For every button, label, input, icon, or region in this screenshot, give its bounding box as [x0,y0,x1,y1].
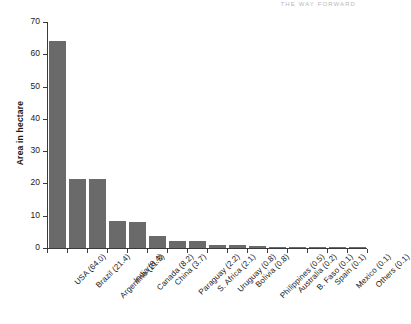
bar-paraguay [169,241,186,248]
y-tick-label: 70 [18,16,40,27]
y-tick-70: 70 [43,22,47,23]
bar-uruguay [209,245,226,248]
bar-brazil [69,179,86,248]
y-tick-label: 50 [18,81,40,92]
bar-mexico [329,247,346,248]
x-axis-labels: USA (64.0)Brazil (21.4)Argentina (21.3)I… [47,252,367,324]
bar-china [149,236,166,248]
y-tick-10: 10 [43,216,47,217]
bar-bolivia [229,245,246,248]
x-tick [367,249,368,253]
y-tick-label: 10 [18,210,40,221]
y-tick-60: 60 [43,54,47,55]
y-tick-20: 20 [43,183,47,184]
plot-area: 010203040506070 [47,22,367,248]
bar-b-faso [289,247,306,248]
bar-canada [129,222,146,248]
y-tick-label: 40 [18,113,40,124]
y-tick-label: 60 [18,48,40,59]
y-tick-label: 0 [18,242,40,253]
y-tick-30: 30 [43,151,47,152]
bar-usa [49,41,66,248]
y-tick-40: 40 [43,119,47,120]
bar-india [109,221,126,248]
bar-spain [309,247,326,248]
bar-philippines [249,246,266,248]
y-tick-label: 20 [18,177,40,188]
y-tick-label: 30 [18,145,40,156]
bar-s-africa [189,241,206,248]
bar-argentina [89,179,106,248]
bar-others [349,247,366,248]
bar-australia [269,247,286,248]
y-tick-50: 50 [43,87,47,88]
